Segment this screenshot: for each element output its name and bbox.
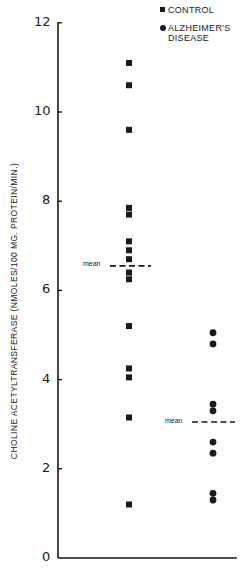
- y-tick-label: 12: [34, 14, 51, 29]
- alzheimers-point: [210, 439, 217, 446]
- alzheimers-point: [210, 407, 217, 414]
- y-tick-label: 4: [42, 371, 50, 386]
- data-points: [126, 60, 216, 508]
- control-point: [126, 127, 132, 133]
- alzheimers-point: [210, 401, 217, 408]
- alzheimers-point: [210, 450, 217, 457]
- legend-label-control: CONTROL: [168, 5, 214, 15]
- alzheimers-point: [210, 341, 217, 348]
- mean-label-control: mean: [83, 260, 101, 267]
- legend-item-control: CONTROL: [160, 5, 231, 15]
- control-point: [126, 374, 132, 380]
- control-point: [126, 82, 132, 88]
- legend-label-alzheimers: ALZHEIMER'S DISEASE: [168, 23, 231, 43]
- control-point: [126, 205, 132, 211]
- control-point: [126, 365, 132, 371]
- square-marker-icon: [160, 7, 165, 12]
- y-tick-label: 6: [42, 281, 50, 296]
- control-point: [126, 276, 132, 282]
- scatter-plot: [0, 0, 247, 574]
- control-point: [126, 270, 132, 276]
- y-tick-label: 2: [42, 460, 50, 475]
- alzheimers-point: [210, 497, 217, 504]
- circle-marker-icon: [160, 25, 166, 31]
- control-point: [126, 238, 132, 244]
- control-point: [126, 247, 132, 253]
- legend-item-alzheimers: ALZHEIMER'S DISEASE: [160, 23, 231, 43]
- control-point: [126, 60, 132, 66]
- axes: [58, 22, 237, 558]
- legend: CONTROL ALZHEIMER'S DISEASE: [160, 5, 231, 51]
- mean-label-alzheimers: mean: [165, 417, 183, 424]
- control-point: [126, 415, 132, 421]
- y-tick-label: 10: [34, 103, 51, 118]
- alzheimers-point: [210, 329, 217, 336]
- y-tick-label: 0: [42, 549, 50, 564]
- control-point: [126, 323, 132, 329]
- y-tick-label: 8: [42, 192, 50, 207]
- legend-label-alzheimers-line1: ALZHEIMER'S: [168, 23, 231, 33]
- legend-label-alzheimers-line2: DISEASE: [168, 33, 209, 43]
- y-axis-label: CHOLINE ACETYLTRANSFERASE (NMOLES/100 MG…: [9, 163, 19, 459]
- control-point: [126, 501, 132, 507]
- control-point: [126, 256, 132, 262]
- alzheimers-point: [210, 490, 217, 497]
- control-point: [126, 212, 132, 218]
